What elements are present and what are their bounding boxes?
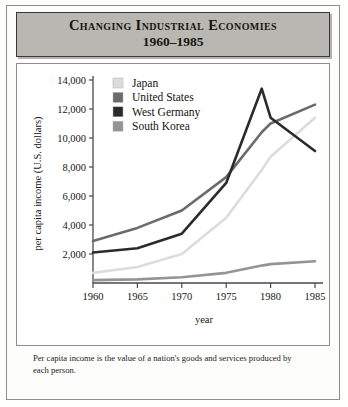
chart-axes xyxy=(89,76,323,288)
x-axis-title: year xyxy=(195,314,214,325)
legend-label-japan: Japan xyxy=(132,77,158,90)
chart-panel: JapanUnited StatesWest GermanySouth Kore… xyxy=(16,63,330,346)
line-chart: JapanUnited StatesWest GermanySouth Kore… xyxy=(17,64,331,347)
series-line-west-germany xyxy=(93,89,315,253)
x-axis-tick-label: 1960 xyxy=(83,291,104,302)
chart-legend: JapanUnited StatesWest GermanySouth Kore… xyxy=(113,77,201,132)
x-axis-tick-label: 1980 xyxy=(260,291,281,302)
y-axis-tick-label: 10,000 xyxy=(57,133,86,144)
x-axis-tick-label: 1985 xyxy=(305,291,326,302)
chart-page: Changing Industrial Economies 1960–1985 … xyxy=(0,0,348,407)
title-banner: Changing Industrial Economies 1960–1985 xyxy=(16,12,330,57)
legend-label-west-germany: West Germany xyxy=(132,106,201,119)
x-axis-tick-label: 1975 xyxy=(216,291,237,302)
y-axis-tick-label: 6,000 xyxy=(62,191,86,202)
x-axis-tick-label: 1965 xyxy=(127,291,148,302)
legend-label-south-korea: South Korea xyxy=(132,120,190,132)
y-axis-title: per capita income (U.S. dollars) xyxy=(32,116,44,251)
legend-swatch-japan xyxy=(113,78,123,88)
series-line-south-korea xyxy=(93,261,315,280)
x-axis-tick-label: 1970 xyxy=(171,291,192,302)
chart-series-layer xyxy=(93,89,315,280)
legend-swatch-west-germany xyxy=(113,107,123,117)
y-axis-tick-label: 2,000 xyxy=(62,249,86,260)
y-axis-tick-label: 14,000 xyxy=(57,75,86,86)
y-axis-tick-label: 8,000 xyxy=(62,162,86,173)
page-title: Changing Industrial Economies xyxy=(69,18,277,33)
legend-label-united-states: United States xyxy=(132,91,194,103)
chart-caption: Per capita income is the value of a nati… xyxy=(33,352,309,377)
page-subtitle: 1960–1985 xyxy=(143,34,204,51)
y-axis-tick-label: 4,000 xyxy=(62,220,86,231)
legend-swatch-united-states xyxy=(113,92,123,102)
y-axis-tick-label: 12,000 xyxy=(57,104,86,115)
legend-swatch-south-korea xyxy=(113,121,123,131)
chart-svg: JapanUnited StatesWest GermanySouth Kore… xyxy=(17,64,331,347)
